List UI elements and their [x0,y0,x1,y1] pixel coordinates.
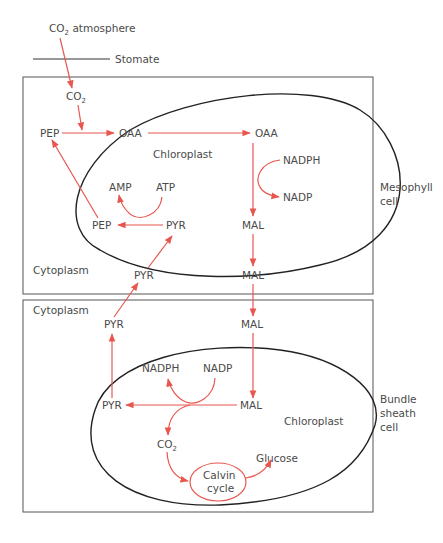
pep-chloro-label: PEP [92,219,111,231]
mesophyll-chloroplast-label: Chloroplast [153,148,212,160]
bundle-cell-label-1: Bundle [380,393,417,405]
bundle-nadp-label: NADP [203,362,232,374]
mesophyll-cytoplasm-label: Cytoplasm [33,264,89,276]
mesophyll-cell-box [23,77,373,294]
mesophyll-cell-label-1: Mesophyll [380,181,433,193]
arrow-atp-amp [119,195,162,217]
bundle-nadph-label: NADPH [142,362,179,374]
bundle-sheath-cell-box [23,300,373,512]
nadp-label: NADP [283,191,312,203]
arrow-nadp-nadph [168,378,215,403]
c4-pathway-diagram: CO2 atmosphere Stomate CO2 PEP OAA OAA C… [0,0,443,543]
mal-cyto-label: MAL [242,269,264,281]
co2-atmosphere-label: CO2 atmosphere [49,22,135,37]
oaa-chloro-label: OAA [255,127,279,139]
bundle-pyr-cyto-label: PYR [104,318,124,330]
arrow-co2-to-reaction [78,105,82,130]
stomate-label: Stomate [115,53,159,65]
bundle-co2-label: CO2 [157,438,177,453]
arrow-to-co2 [168,405,190,435]
bundle-cell-label-3: cell [380,421,398,433]
mal-chloro-label: MAL [242,219,264,231]
arrow-pyr-import [148,236,172,268]
bundle-cytoplasm-label: Cytoplasm [33,304,89,316]
glucose-label: Glucose [256,452,298,464]
co2-label: CO2 [66,90,86,105]
amp-label: AMP [109,181,132,193]
arrow-pep-export [52,140,98,218]
bundle-chloroplast-label: Chloroplast [284,415,343,427]
arrow-nadph-nadp [258,160,280,197]
atp-label: ATP [156,181,175,193]
bundle-mal-cyto-label: MAL [241,318,263,330]
pyr-cyto-label: PYR [134,269,154,281]
bundle-cell-label-2: sheath [380,407,416,419]
bundle-mal-chloro-label: MAL [240,399,262,411]
calvin-label-1: Calvin [203,469,235,481]
oaa-cyto-label: OAA [119,127,143,139]
calvin-label-2: cycle [207,482,234,494]
mesophyll-cell-label-2: cell [380,195,398,207]
pyr-chloro-label: PYR [166,219,186,231]
nadph-label: NADPH [283,154,320,166]
bundle-pyr-chloro-label: PYR [102,399,122,411]
pep-cyto-label: PEP [40,127,59,139]
arrow-co2-in [60,38,72,88]
arrow-co2-calvin [167,452,188,481]
